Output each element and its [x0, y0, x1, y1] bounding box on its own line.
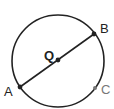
- point-c: [93, 86, 97, 90]
- point-q: [56, 58, 61, 63]
- label-a: A: [4, 84, 13, 99]
- point-a: [18, 85, 23, 90]
- circle-diagram: A B Q C: [0, 0, 114, 109]
- point-b: [92, 32, 97, 37]
- label-q: Q: [44, 48, 54, 63]
- label-b: B: [100, 21, 109, 36]
- label-c: C: [101, 82, 110, 97]
